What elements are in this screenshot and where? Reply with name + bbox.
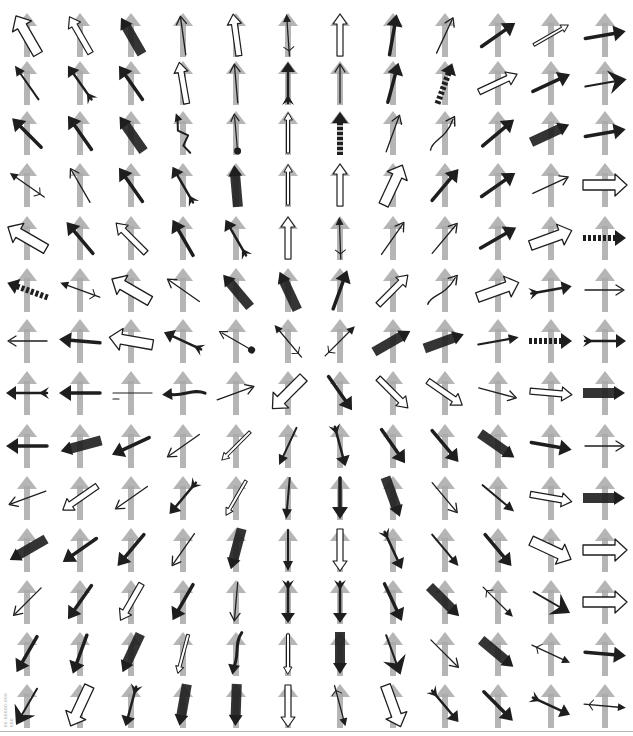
arrow-cell xyxy=(419,628,471,680)
arrow-pair-icon xyxy=(472,628,524,680)
arrow-pair-icon xyxy=(105,576,157,628)
arrow-cell xyxy=(525,315,577,367)
probe-arrow-icon xyxy=(226,13,246,57)
arrow-pair-icon xyxy=(525,264,577,316)
arrow-pair-icon xyxy=(579,57,631,109)
side-code-label: 00-00000-000 000 xyxy=(3,683,9,727)
arrow-pair-icon xyxy=(472,9,524,61)
arrow-pair-icon xyxy=(54,107,106,159)
arrow-cell xyxy=(105,420,157,472)
arrow-pair-icon xyxy=(105,57,157,109)
arrow-pair-icon xyxy=(262,472,314,524)
arrow-pair-icon xyxy=(262,57,314,109)
arrow-cell xyxy=(105,264,157,316)
arrow-cell xyxy=(210,57,262,109)
arrow-cell xyxy=(1,264,53,316)
probe-arrow-icon xyxy=(173,683,194,727)
arrow-pair-icon xyxy=(54,315,106,367)
arrow-cell xyxy=(157,524,209,576)
arrow-pair-icon xyxy=(314,159,366,211)
arrow-pair-icon xyxy=(525,420,577,472)
arrow-cell xyxy=(367,420,419,472)
arrow-cell xyxy=(210,9,262,61)
arrow-cell xyxy=(157,472,209,524)
arrow-pair-icon xyxy=(105,159,157,211)
arrow-pair-icon xyxy=(579,212,631,264)
arrow-pair-icon xyxy=(105,264,157,316)
arrow-pair-icon xyxy=(472,315,524,367)
arrow-cell xyxy=(262,107,314,159)
arrow-cell xyxy=(1,576,53,628)
arrow-pair-icon xyxy=(105,420,157,472)
arrow-pair-icon xyxy=(472,576,524,628)
arrow-cell xyxy=(472,576,524,628)
arrow-cell xyxy=(1,9,53,61)
arrow-pair-icon xyxy=(157,367,209,419)
arrow-pair-icon xyxy=(1,315,53,367)
arrow-cell xyxy=(157,159,209,211)
arrow-cell xyxy=(210,420,262,472)
arrow-pair-icon xyxy=(1,576,53,628)
arrow-pair-icon xyxy=(419,107,471,159)
arrow-pair-icon xyxy=(525,159,577,211)
arrow-pair-icon xyxy=(419,524,471,576)
probe-arrow-icon xyxy=(228,684,243,726)
arrow-cell xyxy=(210,524,262,576)
arrow-pair-icon xyxy=(579,576,631,628)
arrow-pair-icon xyxy=(314,367,366,419)
arrow-pair-icon xyxy=(210,680,262,732)
arrow-cell xyxy=(579,472,631,524)
arrow-cell xyxy=(472,264,524,316)
arrow-pair-icon xyxy=(210,367,262,419)
arrow-cell xyxy=(472,159,524,211)
arrow-cell xyxy=(54,264,106,316)
arrow-pair-icon xyxy=(210,57,262,109)
probe-arrow-icon xyxy=(333,632,347,674)
arrow-pair-icon xyxy=(157,576,209,628)
arrow-pair-icon xyxy=(105,472,157,524)
arrow-cell xyxy=(314,472,366,524)
arrow-cell xyxy=(1,107,53,159)
arrow-pair-icon xyxy=(157,212,209,264)
arrow-cell xyxy=(525,524,577,576)
arrow-pair-icon xyxy=(1,420,53,472)
arrow-pair-icon xyxy=(210,472,262,524)
arrow-cell xyxy=(472,367,524,419)
arrow-cell xyxy=(579,524,631,576)
arrow-cell xyxy=(262,264,314,316)
arrow-cell xyxy=(419,264,471,316)
arrow-cell xyxy=(367,264,419,316)
arrow-cell xyxy=(105,524,157,576)
arrow-pair-icon xyxy=(419,576,471,628)
arrow-pair-icon xyxy=(54,680,106,732)
arrow-cell xyxy=(579,680,631,732)
arrow-cell xyxy=(419,9,471,61)
arrow-cell xyxy=(367,628,419,680)
arrow-pair-icon xyxy=(54,9,106,61)
arrow-pair-icon xyxy=(210,9,262,61)
arrow-pair-icon xyxy=(579,107,631,159)
arrow-pair-icon xyxy=(54,524,106,576)
arrow-pair-icon xyxy=(367,472,419,524)
arrow-pair-icon xyxy=(105,367,157,419)
arrow-pair-icon xyxy=(472,367,524,419)
arrow-pair-icon xyxy=(54,576,106,628)
probe-arrow-icon xyxy=(335,64,345,103)
arrow-cell xyxy=(367,524,419,576)
arrow-pair-icon xyxy=(525,628,577,680)
arrow-cell xyxy=(419,212,471,264)
arrow-cell xyxy=(525,159,577,211)
arrow-pair-icon xyxy=(210,315,262,367)
arrow-cell xyxy=(1,57,53,109)
arrow-pair-icon xyxy=(419,680,471,732)
arrow-pair-icon xyxy=(367,628,419,680)
arrow-pair-icon xyxy=(54,159,106,211)
arrow-pair-icon xyxy=(1,264,53,316)
arrow-cell xyxy=(419,315,471,367)
arrow-pair-icon xyxy=(579,159,631,211)
arrow-pair-icon xyxy=(105,680,157,732)
arrow-cell xyxy=(262,367,314,419)
arrow-cell xyxy=(157,576,209,628)
arrow-cell xyxy=(54,315,106,367)
arrow-cell xyxy=(105,159,157,211)
